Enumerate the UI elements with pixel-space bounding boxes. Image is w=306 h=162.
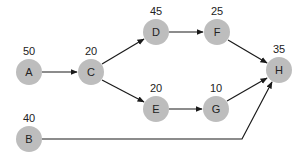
node-g-value: 10	[210, 82, 222, 94]
node-f: 25 F	[204, 5, 230, 45]
node-f-value: 25	[211, 5, 223, 17]
node-c: 20 C	[78, 45, 104, 85]
node-b-value: 40	[23, 112, 35, 124]
node-b-label: B	[25, 133, 32, 145]
edge-c-d	[102, 39, 144, 64]
node-a-label: A	[25, 66, 33, 78]
node-c-value: 20	[85, 45, 97, 57]
node-d: 45 D	[143, 5, 169, 45]
node-a-value: 50	[23, 45, 35, 57]
node-b: 40 B	[16, 112, 42, 152]
node-d-label: D	[152, 26, 160, 38]
edge-g-h	[227, 78, 267, 101]
node-d-value: 45	[150, 5, 162, 17]
network-diagram: 50 A 40 B 20 C 45 D 20 E 25 F 10 G 35 H	[0, 0, 306, 162]
node-h-label: H	[275, 64, 283, 76]
node-h: 35 H	[266, 43, 292, 83]
node-e-label: E	[152, 103, 159, 115]
node-g-label: G	[212, 103, 221, 115]
node-c-label: C	[87, 66, 95, 78]
node-a: 50 A	[16, 45, 42, 85]
node-e-value: 20	[150, 82, 162, 94]
node-e: 20 E	[143, 82, 169, 122]
node-f-label: F	[214, 26, 221, 38]
edge-c-e	[102, 80, 144, 102]
edge-f-h	[228, 40, 267, 63]
node-g: 10 G	[203, 82, 229, 122]
node-h-value: 35	[273, 43, 285, 55]
